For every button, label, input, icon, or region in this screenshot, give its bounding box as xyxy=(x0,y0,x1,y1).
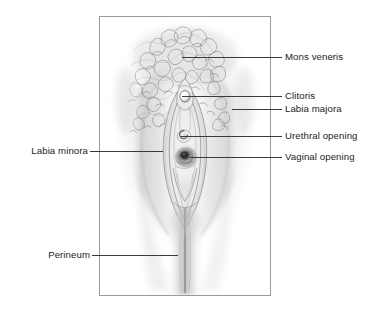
label-mons-veneris: Mons veneris xyxy=(285,51,343,62)
label-perineum: Perineum xyxy=(0,249,90,260)
label-vaginal-opening: Vaginal opening xyxy=(285,151,355,162)
label-clitoris: Clitoris xyxy=(285,90,315,101)
label-labia-minora: Labia minora xyxy=(0,145,88,156)
figure-canvas: Mons veneris Clitoris Labia majora Ureth… xyxy=(0,0,376,309)
illustration-frame xyxy=(99,16,271,296)
label-urethral-opening: Urethral opening xyxy=(285,130,358,141)
label-labia-majora: Labia majora xyxy=(285,103,342,114)
vulva-anatomy-drawing xyxy=(100,17,270,295)
